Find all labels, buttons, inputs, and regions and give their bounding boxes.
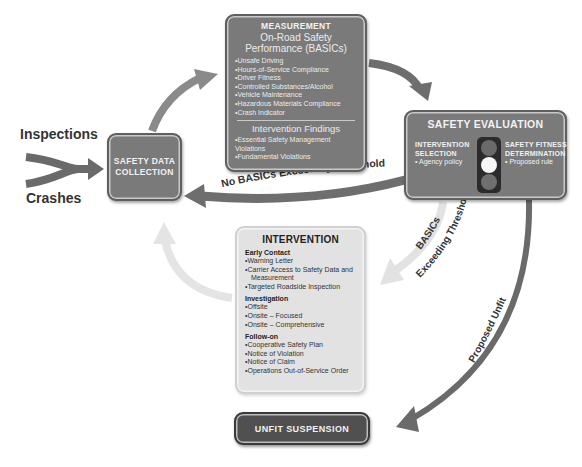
arrow-no-basics [184,180,405,208]
basic-item: Hours-of-Service Compliance [235,66,357,75]
intervention-item: Cooperative Safety Plan [245,341,356,350]
arrow-basics-exceeding [380,202,443,285]
intervention-item: Onsite – Focused [245,312,356,321]
intervention-item: Targeted Roadside Inspection [245,283,356,292]
evaluation-title: SAFETY EVALUATION [414,118,557,130]
arrow-proposed-unfit [396,200,529,432]
intervention-item: Warning Letter [245,257,356,266]
section-heading-investigation: Investigation [245,294,356,303]
section-heading-follow-on: Follow-on [245,332,356,341]
section-heading-early-contact: Early Contact [245,248,356,257]
basic-item: Controlled Substances/Alcohol [235,83,357,92]
measurement-title: MEASUREMENT [235,21,357,31]
safety-data-collection-box: SAFETY DATA COLLECTION [107,133,182,201]
finding-item: Fundamental Violations [235,153,357,162]
investigation-list: Offsite Onsite – Focused Onsite – Compre… [245,303,356,329]
arrow-intervention-to-collection [153,222,232,298]
safety-fitness-determination: SAFETY FITNESS DETERMINATION • Proposed … [505,141,567,167]
intervention-item: Notice of Claim [245,358,356,367]
traffic-light-icon [477,137,501,193]
intervention-selection-heading-2: SELECTION [415,150,475,159]
intervention-selection-heading-1: INTERVENTION [415,141,475,150]
basic-item: Hazardous Materials Compliance [235,100,357,109]
safety-fitness-heading-1: SAFETY FITNESS [505,141,567,150]
intervention-item: Offsite [245,303,356,312]
basic-item: Unsafe Driving [235,57,357,66]
collection-line-2: COLLECTION [114,167,175,178]
input-label-inspections: Inspections [20,126,98,142]
arrow-collection-to-measurement [152,69,218,131]
basic-item: Vehicle Maintenance [235,91,357,100]
measurement-subtitle: On-Road Safety Performance (BASICs) [235,32,357,54]
intervention-title: INTERVENTION [245,234,356,245]
safety-fitness-heading-2: DETERMINATION [505,150,567,159]
intervention-selection: INTERVENTION SELECTION • Agency policy [415,141,475,167]
traffic-light-bottom-lamp [481,174,497,190]
basic-item: Crash Indicator [235,109,357,118]
findings-list: Essential Safety Management Violations F… [235,136,357,162]
measurement-divider [237,120,355,121]
intervention-item: Operations Out-of-Service Order [245,367,356,376]
unfit-suspension-label: UNFIT SUSPENSION [255,424,349,434]
intervention-selection-item: • Agency policy [415,158,475,167]
intervention-item: Notice of Violation [245,350,356,359]
intervention-item: Carrier Access to Safety Data and Measur… [245,266,356,283]
traffic-light-middle-lamp [481,157,497,173]
follow-on-list: Cooperative Safety Plan Notice of Violat… [245,341,356,375]
safety-fitness-item: • Proposed rule [505,158,567,167]
inputs-merge-arrow [26,157,104,184]
input-label-crashes: Crashes [26,190,81,206]
intervention-item: Onsite – Comprehensive [245,321,356,330]
findings-title: Intervention Findings [235,123,357,134]
basic-item: Driver Fitness [235,74,357,83]
finding-item: Essential Safety Management Violations [235,136,357,153]
measurement-box: MEASUREMENT On-Road Safety Performance (… [225,14,367,172]
arrow-measurement-to-evaluation [369,63,432,101]
traffic-light-top-lamp [481,140,497,156]
intervention-box: INTERVENTION Early Contact Warning Lette… [235,226,366,394]
collection-line-1: SAFETY DATA [114,156,175,167]
unfit-suspension-box: UNFIT SUSPENSION [234,412,370,445]
safety-evaluation-box: SAFETY EVALUATION INTERVENTION SELECTION… [404,110,567,200]
early-contact-list: Warning Letter Carrier Access to Safety … [245,257,356,291]
basics-list: Unsafe Driving Hours-of-Service Complian… [235,57,357,117]
